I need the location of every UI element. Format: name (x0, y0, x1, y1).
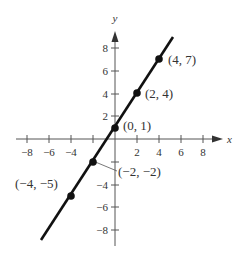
x-tick-label: −4 (65, 146, 77, 158)
point-label: (0, 1) (123, 118, 151, 133)
y-tick-label: 8 (103, 42, 109, 54)
point-label: (−4, −5) (15, 176, 58, 191)
point-label: (2, 4) (145, 86, 173, 101)
y-tick-label: 6 (103, 65, 109, 77)
x-tick-label: 8 (200, 146, 206, 158)
x-tick-label: 6 (178, 146, 184, 158)
y-axis-label: y (112, 12, 118, 24)
x-axis: x −8 −6 −4 2 4 6 8 (16, 133, 232, 158)
y-tick-label: −8 (96, 224, 108, 236)
y-tick-label: 2 (103, 110, 109, 122)
y-tick-label: −4 (96, 179, 108, 191)
y-tick-label: 4 (103, 88, 109, 100)
x-axis-label: x (226, 133, 232, 145)
data-point (155, 55, 163, 63)
x-tick-label: −6 (43, 146, 55, 158)
data-point (133, 89, 141, 97)
x-tick-label: 4 (156, 146, 162, 158)
chart-canvas: x −8 −6 −4 2 4 6 8 y 8 6 4 2 (0, 0, 246, 260)
point-label: (4, 7) (168, 52, 196, 67)
data-point (111, 124, 119, 132)
y-axis-arrow-icon (112, 31, 119, 42)
x-axis-arrow-icon (212, 136, 223, 143)
data-point (89, 158, 97, 166)
x-tick-label: −8 (21, 146, 33, 158)
point-label: (−2, −2) (118, 164, 161, 179)
y-tick-label: −6 (96, 201, 108, 213)
x-tick-label: 2 (134, 146, 140, 158)
data-point (67, 192, 75, 200)
